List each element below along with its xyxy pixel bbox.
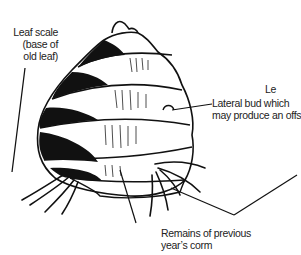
lateral-bud bbox=[163, 106, 174, 111]
label-remains-line2: year’s corm bbox=[161, 239, 251, 251]
label-leaf-scale-line3: old leaf) bbox=[8, 50, 58, 62]
leader-roots-2 bbox=[234, 175, 297, 215]
leader-roots bbox=[171, 188, 234, 215]
label-lateral-bud-line1: Lateral bud which bbox=[212, 97, 301, 109]
label-remains: Remains of previous year’s corm bbox=[161, 227, 251, 251]
leader-leaf-scale bbox=[12, 68, 25, 172]
label-leaf-scale: Leaf scale (base of old leaf) bbox=[8, 26, 58, 62]
label-leaf-scale-line2: (base of bbox=[8, 38, 58, 50]
label-leaf-scale-line1: Leaf scale bbox=[8, 26, 58, 38]
label-remains-line1: Remains of previous bbox=[161, 227, 251, 239]
label-cut-off: Le bbox=[265, 83, 276, 95]
label-lateral-bud: Lateral bud which may produce an offset bbox=[212, 97, 301, 121]
label-lateral-bud-line2: may produce an offset bbox=[212, 109, 301, 121]
